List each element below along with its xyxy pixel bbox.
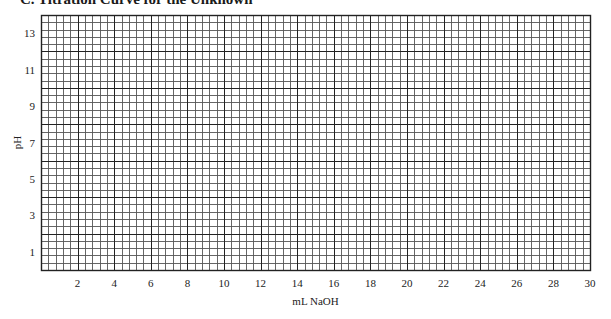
x-tick-label: 12 <box>255 277 266 289</box>
x-tick-label: 24 <box>475 277 487 289</box>
plot-frame <box>42 16 591 271</box>
titration-graph: 24681012141618202224262830 135791113 mL … <box>0 0 611 319</box>
y-tick-label: 1 <box>30 246 36 258</box>
y-axis-ticks: 135791113 <box>24 27 36 258</box>
x-tick-label: 8 <box>185 277 191 289</box>
x-tick-label: 18 <box>365 277 377 289</box>
x-axis-label: mL NaOH <box>292 295 338 307</box>
x-tick-label: 14 <box>292 277 304 289</box>
y-tick-label: 3 <box>30 209 36 221</box>
y-axis-label: pH <box>11 136 23 150</box>
x-tick-label: 2 <box>75 277 81 289</box>
y-tick-label: 13 <box>24 27 36 39</box>
y-tick-label: 5 <box>30 173 36 185</box>
x-axis-ticks: 24681012141618202224262830 <box>75 277 596 289</box>
x-tick-label: 26 <box>511 277 523 289</box>
x-tick-label: 16 <box>328 277 340 289</box>
minor-grid <box>41 15 590 270</box>
x-tick-label: 10 <box>219 277 231 289</box>
x-tick-label: 30 <box>585 277 597 289</box>
x-tick-label: 4 <box>111 277 117 289</box>
y-tick-label: 7 <box>30 137 36 149</box>
x-tick-label: 20 <box>402 277 414 289</box>
major-grid <box>41 15 591 271</box>
x-tick-label: 28 <box>548 277 560 289</box>
y-tick-label: 11 <box>24 64 35 76</box>
x-tick-label: 22 <box>438 277 449 289</box>
x-tick-label: 6 <box>148 277 154 289</box>
y-tick-label: 9 <box>30 100 36 112</box>
